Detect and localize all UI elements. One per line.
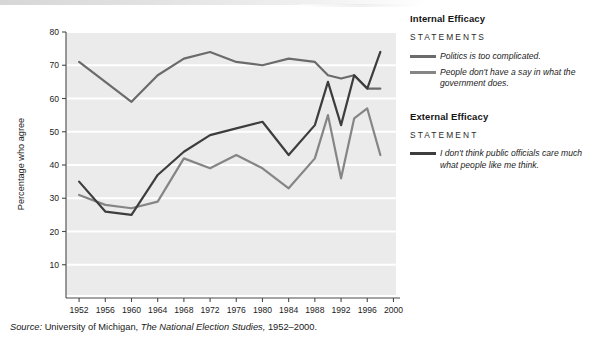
y-axis-title: Percentage who agree <box>16 118 26 210</box>
y-tick-label: 60 <box>49 94 59 104</box>
source-publication: The National Election Studies, <box>141 322 266 332</box>
legend-group-internal-efficacy: Internal Efficacy STATEMENTS Politics is… <box>410 14 590 90</box>
legend-line-swatch-icon <box>410 71 436 74</box>
source-institution: University of Michigan, <box>45 322 139 332</box>
legend-subtitle-internal-statements: STATEMENTS <box>410 33 590 42</box>
y-tick-label: 80 <box>49 27 59 37</box>
x-tick-label: 1996 <box>358 305 377 314</box>
chart-canvas: 1020304050607080 19521956196019641968197… <box>8 14 408 314</box>
x-tick-label: 1980 <box>253 305 272 314</box>
legend-line-swatch-icon <box>410 55 436 58</box>
legend-subtitle-external-statement: STATEMENT <box>410 131 590 140</box>
source-prefix: Source: <box>10 322 42 332</box>
x-tick-label: 1984 <box>279 305 298 314</box>
x-tick-label: 1964 <box>148 305 167 314</box>
legend-item-label: Politics is too complicated. <box>440 51 541 62</box>
figure-political-efficacy: 1020304050607080 19521956196019641968197… <box>0 0 594 344</box>
line-chart: 1020304050607080 19521956196019641968197… <box>8 14 408 314</box>
x-tick-label: 1968 <box>174 305 193 314</box>
x-tick-label: 1952 <box>70 305 89 314</box>
x-tick-label: 1972 <box>201 305 220 314</box>
legend-item-label: I don't think public officials care much… <box>440 148 586 171</box>
x-tick-label: 1976 <box>227 305 246 314</box>
x-tick-label: 2000 <box>384 305 403 314</box>
y-tick-label: 10 <box>49 260 59 270</box>
y-tick-label: 40 <box>49 160 59 170</box>
x-tick-label: 1956 <box>96 305 115 314</box>
y-tick-label: 30 <box>49 193 59 203</box>
legend-item-label: People don't have a say in what the gove… <box>440 67 586 90</box>
x-tick-label: 1988 <box>305 305 324 314</box>
source-caption: Source: University of Michigan, The Nati… <box>10 322 317 332</box>
source-years: 1952–2000. <box>268 322 317 332</box>
legend-item-people-no-say: People don't have a say in what the gove… <box>410 67 590 90</box>
x-tick-label: 1992 <box>331 305 350 314</box>
legend-item-officials-dont-care: I don't think public officials care much… <box>410 148 590 171</box>
y-tick-label: 20 <box>49 227 59 237</box>
y-axis-ticks: 1020304050607080 <box>49 27 66 270</box>
legend-line-swatch-icon <box>410 152 436 155</box>
y-tick-label: 70 <box>49 60 59 70</box>
legend-title-internal-efficacy: Internal Efficacy <box>410 14 590 24</box>
y-tick-label: 50 <box>49 127 59 137</box>
plot-background <box>66 32 396 295</box>
legend-title-external-efficacy: External Efficacy <box>410 112 590 122</box>
chart-legend: Internal Efficacy STATEMENTS Politics is… <box>410 14 590 176</box>
x-axis-ticks: 1952195619601964196819721976198019841988… <box>70 298 404 314</box>
legend-group-external-efficacy: External Efficacy STATEMENT I don't thin… <box>410 112 590 171</box>
legend-item-politics-too-complicated: Politics is too complicated. <box>410 51 590 62</box>
x-tick-label: 1960 <box>122 305 141 314</box>
